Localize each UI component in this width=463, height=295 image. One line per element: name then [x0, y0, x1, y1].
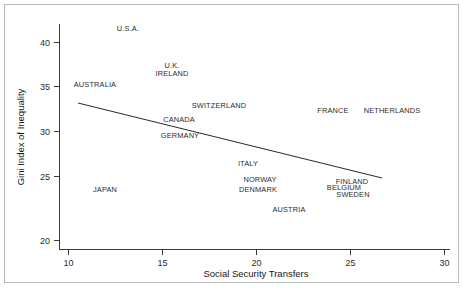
- y-tick-marks: [54, 43, 60, 241]
- x-axis-title: Social Security Transfers: [203, 268, 308, 279]
- x-tick-label-30: 30: [439, 258, 449, 268]
- data-label-australia: AUSTRALIA: [74, 80, 116, 89]
- data-label-france: FRANCE: [317, 106, 348, 115]
- x-tick-label-20: 20: [251, 258, 261, 268]
- x-tick-label-10: 10: [63, 258, 73, 268]
- x-tick-marks: [69, 250, 445, 256]
- data-label-austria: AUSTRIA: [272, 205, 305, 214]
- x-axis-group: 10 15 20 25 30 Social Security Transfers: [60, 250, 451, 280]
- data-label-canada: CANADA: [163, 115, 195, 124]
- data-label-usa: U.S.A.: [117, 24, 139, 33]
- data-label-italy: ITALY: [238, 159, 258, 168]
- data-label-germany: GERMANY: [161, 131, 199, 140]
- y-axis-group: 40 35 30 25 20 Gini Index of Inequality: [15, 24, 60, 250]
- chart-figure: 40 35 30 25 20 Gini Index of Inequality …: [0, 0, 463, 295]
- data-label-switzerland: SWITZERLAND: [192, 101, 247, 110]
- data-point-labels: U.S.A. U.K. IRELAND AUSTRALIA SWITZERLAN…: [74, 24, 421, 214]
- data-label-denmark: DENMARK: [239, 185, 277, 194]
- x-tick-label-15: 15: [157, 258, 167, 268]
- data-label-sweden: SWEDEN: [336, 190, 369, 199]
- scatter-plot: 40 35 30 25 20 Gini Index of Inequality …: [0, 0, 463, 295]
- data-label-japan: JAPAN: [93, 185, 117, 194]
- y-tick-label-30: 30: [40, 127, 50, 137]
- y-axis-title: Gini Index of Inequality: [15, 88, 26, 185]
- y-tick-label-25: 25: [40, 172, 50, 182]
- y-tick-label-20: 20: [40, 236, 50, 246]
- x-tick-label-25: 25: [345, 258, 355, 268]
- data-label-ireland: IRELAND: [155, 69, 188, 78]
- y-tick-label-40: 40: [40, 38, 50, 48]
- data-label-norway: NORWAY: [243, 175, 276, 184]
- data-label-netherlands: NETHERLANDS: [364, 106, 421, 115]
- y-tick-label-35: 35: [40, 82, 50, 92]
